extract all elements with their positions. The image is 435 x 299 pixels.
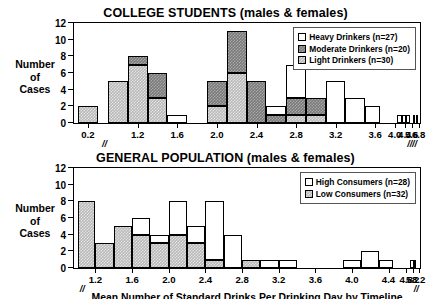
- histogram-bar-segment: [114, 226, 132, 268]
- x-tick-label: 4.0: [345, 274, 358, 285]
- x-tick: [375, 123, 376, 128]
- y-tick: [68, 200, 74, 201]
- x-tick-label: 3.6: [369, 129, 382, 140]
- x-tick-label: 1.2: [131, 129, 144, 140]
- x-tick: [405, 123, 406, 128]
- chart-panel-general-population: GENERAL POPULATION (males & females) Num…: [0, 147, 435, 299]
- x-tick-label: 2.8: [235, 274, 248, 285]
- chart-title-bottom: GENERAL POPULATION (males & females): [8, 151, 435, 165]
- histogram-bar-segment: [150, 243, 168, 268]
- plot-area-bottom: 0246810121.21.62.02.42.83.23.64.04.44.85…: [73, 167, 421, 269]
- x-tick-label: 0.2: [81, 129, 94, 140]
- legend-swatch: [298, 33, 306, 41]
- legend-label: Light Drinkers (n=30): [309, 55, 393, 65]
- x-tick: [217, 123, 218, 128]
- y-axis-title-line-3: Cases: [4, 227, 66, 240]
- x-tick: [279, 268, 280, 273]
- x-tick-label: 3.2: [272, 274, 285, 285]
- histogram-bar-segment: [227, 31, 247, 73]
- x-tick: [352, 268, 353, 273]
- y-tick: [68, 22, 74, 23]
- x-tick-label: 1.6: [125, 274, 138, 285]
- histogram-bar-segment: [169, 201, 187, 234]
- y-tick-label: 2: [60, 246, 66, 257]
- histogram-bar-segment: [286, 98, 306, 115]
- figure-root: COLLEGE STUDENTS (males & females) Numbe…: [0, 0, 435, 299]
- legend-swatch: [305, 190, 313, 198]
- histogram-bar-segment: [242, 260, 260, 268]
- histogram-bar-segment: [95, 243, 113, 268]
- x-tick-label: 2.0: [210, 129, 223, 140]
- legend-item: Light Drinkers (n=30): [298, 55, 410, 66]
- histogram-bar-segment: [187, 243, 205, 268]
- y-tick-label: 12: [55, 163, 66, 174]
- y-axis-title-bottom: Number of Cases: [4, 202, 66, 240]
- histogram-bar-segment: [414, 260, 416, 268]
- x-tick: [315, 268, 316, 273]
- histogram-bar-segment: [150, 235, 168, 243]
- x-tick-label: 2.4: [199, 274, 212, 285]
- histogram-bar-segment: [365, 106, 380, 123]
- y-tick: [68, 122, 74, 123]
- histogram-bar-segment: [128, 65, 148, 123]
- y-tick: [68, 89, 74, 90]
- x-tick: [336, 123, 337, 128]
- histogram-bar-segment: [286, 115, 306, 123]
- x-tick: [169, 268, 170, 273]
- y-tick-label: 4: [60, 229, 66, 240]
- x-tick: [406, 268, 407, 273]
- histogram-bar-segment: [326, 81, 346, 123]
- y-tick-label: 2: [60, 101, 66, 112]
- x-tick: [412, 123, 413, 128]
- histogram-bar-segment: [306, 115, 326, 123]
- y-tick-label: 0: [60, 263, 66, 274]
- x-tick-label: 1.6: [171, 129, 184, 140]
- histogram-bar-segment: [207, 81, 227, 106]
- x-tick: [88, 123, 89, 128]
- chart-panel-college-students: COLLEGE STUDENTS (males & females) Numbe…: [0, 0, 435, 152]
- histogram-bar-segment: [416, 115, 418, 123]
- histogram-bar-segment: [266, 115, 286, 123]
- legend-item: Low Consumers (n=32): [305, 188, 410, 199]
- histogram-bar-segment: [266, 106, 286, 114]
- y-tick-label: 10: [55, 34, 66, 45]
- x-tick-label: 2.8: [289, 129, 302, 140]
- y-tick: [68, 217, 74, 218]
- legend-swatch: [305, 178, 313, 186]
- histogram-bar-segment: [406, 115, 409, 123]
- x-tick: [205, 268, 206, 273]
- y-tick-label: 10: [55, 179, 66, 190]
- x-tick: [95, 268, 96, 273]
- histogram-bar-segment: [148, 73, 168, 98]
- histogram-bar-segment: [132, 218, 150, 235]
- histogram-bar-segment: [205, 260, 223, 268]
- plot-area-top: 0246810120.21.21.62.02.42.83.23.64.04.45…: [73, 22, 421, 124]
- y-tick: [68, 167, 74, 168]
- histogram-bar-segment: [379, 260, 393, 268]
- histogram-bar-segment: [187, 226, 205, 243]
- x-tick: [389, 268, 390, 273]
- y-tick-label: 4: [60, 84, 66, 95]
- histogram-bar-segment: [169, 235, 187, 268]
- histogram-bar-segment: [306, 98, 326, 115]
- x-tick-label: 4.4: [382, 274, 395, 285]
- y-axis-title-line-2: of: [4, 215, 66, 228]
- histogram-bar-segment: [279, 260, 297, 268]
- histogram-bar-segment: [148, 98, 168, 123]
- x-tick-label: 3.6: [309, 274, 322, 285]
- y-axis-title-line-1: Number: [4, 58, 66, 71]
- histogram-bar-segment: [343, 260, 361, 268]
- y-tick-label: 6: [60, 213, 66, 224]
- legend-item: High Consumers (n=28): [305, 177, 410, 188]
- legend-label: High Consumers (n=28): [316, 177, 410, 187]
- y-tick: [68, 184, 74, 185]
- histogram-bar-segment: [78, 106, 98, 123]
- legend-label: Moderate Drinkers (n=20): [309, 44, 410, 54]
- histogram-bar-segment: [207, 106, 227, 123]
- legend-item: Moderate Drinkers (n=20): [298, 43, 410, 54]
- y-tick-label: 8: [60, 51, 66, 62]
- histogram-bar-segment: [227, 73, 247, 123]
- y-tick-label: 12: [55, 18, 66, 29]
- legend-swatch: [298, 45, 306, 53]
- y-tick: [68, 250, 74, 251]
